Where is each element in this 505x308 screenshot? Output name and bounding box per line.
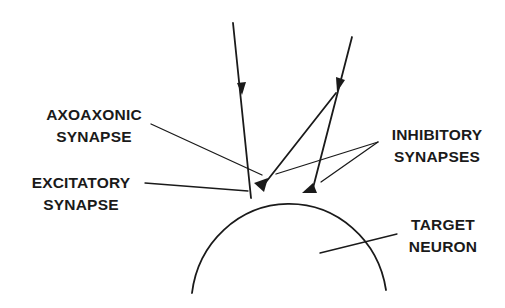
label-line: EXCITATORY: [24, 172, 138, 194]
inhibitory-leader-line-1: [276, 142, 378, 174]
excitatory-synapse-label: EXCITATORY SYNAPSE: [24, 172, 138, 216]
label-line: NEURON: [400, 236, 486, 258]
axoaxonic-terminal: [254, 178, 268, 192]
axoaxonic-synapse-label: AXOAXONIC SYNAPSE: [38, 104, 150, 148]
label-line: SYNAPSE: [24, 194, 138, 216]
inhibitory-synapses-label: INHIBITORY SYNAPSES: [384, 124, 490, 168]
label-line: SYNAPSES: [384, 146, 490, 168]
arrow-down-icon: [336, 77, 345, 92]
excitatory-axon: [233, 23, 251, 198]
label-line: TARGET: [400, 214, 486, 236]
target-neuron-outline: [192, 204, 386, 293]
excitatory-leader-line: [145, 183, 248, 191]
label-line: INHIBITORY: [384, 124, 490, 146]
target-leader-line: [320, 234, 397, 253]
inhibitory-axon: [313, 37, 352, 188]
arrow-down-icon: [237, 82, 246, 95]
label-line: SYNAPSE: [38, 126, 150, 148]
inhibitory-leader-line-2: [321, 142, 378, 182]
target-neuron-label: TARGET NEURON: [400, 214, 486, 258]
label-line: AXOAXONIC: [38, 104, 150, 126]
